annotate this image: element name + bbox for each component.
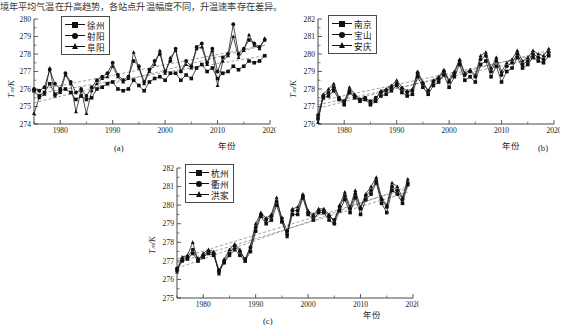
figure-panel-a: 2742752762772782792801980199020002010202…: [4, 14, 276, 156]
caption-a: (a): [114, 143, 124, 153]
svg-text:278: 278: [304, 85, 316, 94]
x-axis-label-a: 年份: [218, 139, 236, 151]
legend-marker-circle-icon: [189, 178, 209, 189]
figure-panel-b: 2762772782792802812821980199020002010202…: [286, 14, 560, 156]
legend-label: 安庆: [352, 40, 372, 52]
svg-text:279: 279: [304, 67, 316, 76]
svg-text:1980: 1980: [53, 126, 68, 135]
svg-text:2000: 2000: [158, 126, 173, 135]
svg-text:280: 280: [20, 15, 32, 24]
svg-text:280: 280: [163, 201, 175, 210]
legend-label: 阜阳: [85, 41, 105, 53]
legend-item-宝山: 宝山: [332, 29, 372, 40]
legend-marker-triangle-icon: [65, 41, 85, 52]
svg-text:274: 274: [20, 120, 32, 129]
svg-text:282: 282: [163, 164, 175, 173]
svg-text:276: 276: [20, 85, 32, 94]
legend-item-射阳: 射阳: [65, 30, 105, 41]
svg-text:2020: 2020: [405, 300, 419, 309]
y-axis-label-b: Tₘ/K: [288, 80, 298, 98]
plot-a: 2742752762772782792801980199020002010202…: [4, 14, 276, 156]
svg-text:275: 275: [163, 294, 175, 303]
svg-text:277: 277: [20, 67, 32, 76]
legend-marker-circle-icon: [65, 30, 85, 41]
svg-text:2020: 2020: [546, 126, 560, 135]
y-axis-label-a: Tₘ/K: [6, 80, 16, 98]
svg-text:281: 281: [163, 182, 175, 191]
top-caption-text: 境年平均气温在升高趋势，各站点升温幅度不同，升温速率存在差异。: [0, 0, 563, 13]
plot-a-svg: 2742752762772782792801980199020002010202…: [4, 14, 276, 156]
legend-c: 杭州衢州洪家: [185, 164, 234, 203]
svg-text:1980: 1980: [337, 126, 352, 135]
svg-text:1990: 1990: [105, 126, 120, 135]
x-axis-label-b: 年份: [502, 139, 520, 151]
svg-text:278: 278: [20, 50, 32, 59]
svg-text:1980: 1980: [196, 300, 211, 309]
svg-text:280: 280: [304, 50, 316, 59]
svg-text:279: 279: [20, 32, 32, 41]
figure-panel-c: 2752762772782792802812821980199020002010…: [145, 158, 419, 332]
legend-b: 南京宝山安庆: [328, 15, 377, 54]
legend-item-徐州: 徐州: [65, 19, 105, 30]
legend-label: 洪家: [209, 189, 229, 201]
legend-marker-square-icon: [332, 18, 352, 29]
x-axis-label-c: 年份: [363, 308, 381, 320]
svg-text:278: 278: [163, 238, 175, 247]
svg-text:281: 281: [304, 32, 316, 41]
svg-text:277: 277: [163, 257, 175, 266]
legend-item-安庆: 安庆: [332, 40, 372, 51]
svg-text:276: 276: [163, 275, 175, 284]
caption-c: (c): [263, 316, 273, 326]
svg-text:282: 282: [304, 15, 316, 24]
svg-text:277: 277: [304, 102, 316, 111]
svg-text:1990: 1990: [389, 126, 404, 135]
svg-text:2000: 2000: [442, 126, 457, 135]
svg-text:275: 275: [20, 102, 32, 111]
svg-text:2010: 2010: [210, 126, 225, 135]
legend-item-阜阳: 阜阳: [65, 41, 105, 52]
svg-text:2010: 2010: [494, 126, 509, 135]
svg-text:2020: 2020: [262, 126, 276, 135]
y-axis-label-c: Tₘ/K: [147, 236, 157, 254]
legend-item-洪家: 洪家: [189, 189, 229, 200]
caption-b: (b): [538, 143, 548, 153]
svg-text:2000: 2000: [301, 300, 316, 309]
legend-marker-triangle-icon: [189, 189, 209, 200]
legend-marker-circle-icon: [332, 29, 352, 40]
legend-a: 徐州射阳阜阳: [61, 16, 110, 55]
legend-item-南京: 南京: [332, 18, 372, 29]
legend-item-杭州: 杭州: [189, 167, 229, 178]
legend-item-衢州: 衢州: [189, 178, 229, 189]
svg-text:276: 276: [304, 120, 316, 129]
svg-text:279: 279: [163, 219, 175, 228]
legend-marker-square-icon: [65, 19, 85, 30]
legend-marker-triangle-icon: [332, 40, 352, 51]
svg-text:1990: 1990: [248, 300, 263, 309]
legend-marker-square-icon: [189, 167, 209, 178]
